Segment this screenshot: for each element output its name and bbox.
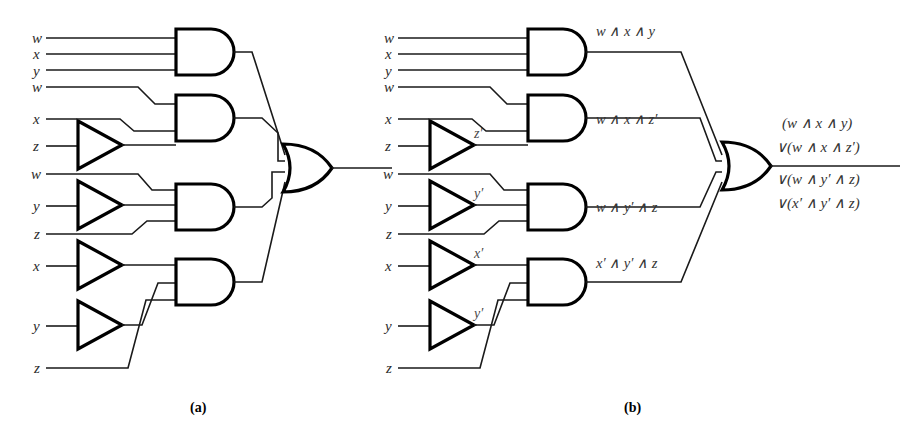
input-label-b-11: z [385, 360, 392, 376]
and-output-label-b-2: w ∧ x ∧ z′ [596, 111, 658, 127]
input-label-a-2: y [31, 63, 40, 79]
logic-circuit-figure: w x y w x z w y z x y z [0, 0, 914, 437]
and-output-label-b-3: w ∧ y′ ∧ z [596, 199, 658, 215]
input-label-a-6: w [31, 166, 41, 182]
input-label-b-2: y [383, 63, 392, 79]
input-label-a-9: x [32, 258, 40, 274]
output-expression-line-1: ∨(w ∧ x ∧ z′) [776, 139, 860, 156]
inverter-output-label-b-2: y′ [472, 186, 484, 201]
input-label-a-7: y [31, 198, 40, 214]
input-label-b-3: w [384, 79, 394, 95]
and-output-label-b-1: w ∧ x ∧ y [596, 23, 656, 39]
input-label-a-10: y [31, 318, 40, 334]
and-gate-b-1 [528, 29, 586, 75]
output-expression-line-0: (w ∧ x ∧ y) [782, 115, 852, 132]
input-label-a-4: x [32, 111, 40, 127]
and-gate-a-2 [176, 95, 234, 141]
input-label-b-0: w [384, 30, 394, 46]
input-label-b-8: z [385, 226, 392, 242]
input-label-b-5: z [384, 138, 391, 154]
and-gate-b-4 [528, 259, 586, 305]
output-expression-line-2: ∨(w ∧ y′ ∧ z) [776, 171, 860, 188]
input-label-b-7: y [383, 198, 392, 214]
input-label-a-0: w [32, 30, 42, 46]
inverter-output-label-b-4: y′ [472, 306, 484, 321]
input-label-a-8: z [33, 226, 40, 242]
and-output-label-b-4: x′ ∧ y′ ∧ z [595, 255, 658, 271]
inverter-output-label-b-3: x′ [473, 246, 484, 261]
input-label-a-3: w [32, 79, 42, 95]
and-gate-a-4 [176, 259, 234, 305]
input-label-a-5: z [32, 138, 39, 154]
input-label-b-4: x [384, 111, 392, 127]
input-label-b-1: x [384, 46, 392, 62]
and-gate-a-1 [176, 29, 234, 75]
caption-b: (b) [624, 400, 641, 416]
caption-a: (a) [190, 400, 207, 416]
input-label-a-1: x [32, 46, 40, 62]
and-gate-b-2 [528, 95, 586, 141]
input-label-b-9: x [384, 258, 392, 274]
and-gate-a-3 [176, 184, 234, 230]
figure-background [0, 0, 914, 437]
input-label-b-6: w [383, 166, 393, 182]
and-gate-b-3 [528, 184, 586, 230]
output-expression-line-3: ∨(x′ ∧ y′ ∧ z) [776, 195, 860, 212]
input-label-b-10: y [383, 318, 392, 334]
input-label-a-11: z [33, 360, 40, 376]
